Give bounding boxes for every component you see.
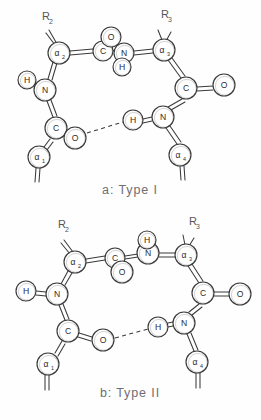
figure-sheet: α2CONHα3CONHCOHNα1α4 R2R3 a: Type I xyxy=(0,0,261,420)
atom-label: O xyxy=(72,133,79,143)
atom-label: α xyxy=(176,150,181,160)
atom-a-n-right: N xyxy=(152,106,174,128)
atom-b-n-right: N xyxy=(173,312,195,334)
hydrogen-bond-dashed-type-i xyxy=(87,122,123,133)
atom-label-subscript: 3 xyxy=(189,256,192,262)
atoms-type-i: α2CONHα3CONHCOHNα1α4 xyxy=(18,27,235,168)
b-bond-nright-h xyxy=(168,322,173,323)
atom-label: C xyxy=(100,46,106,56)
caption-type-i: a: Type I xyxy=(102,183,158,197)
diagram-type-i: α2CONHα3CONHCOHNα1α4 R2R3 a: Type I xyxy=(18,8,235,197)
atom-b-alpha1: α1 xyxy=(37,353,59,375)
atom-b-o-left: O xyxy=(92,329,114,351)
tail-alpha4-b xyxy=(184,166,185,180)
atom-b-o-top: O xyxy=(111,261,133,283)
atom-a-alpha1: α1 xyxy=(28,146,50,168)
side-chain-labels-type-ii: R2R3 xyxy=(58,215,200,233)
bond-cright-nright-b xyxy=(171,102,185,110)
atom-label: α xyxy=(160,45,165,55)
atom-label-subscript: 2 xyxy=(62,54,65,60)
bond-nright-h xyxy=(143,117,152,119)
b-bond-alpha2-c xyxy=(86,256,105,259)
side-chain-a-r2: R2 xyxy=(42,10,53,25)
atom-label: N xyxy=(121,48,127,58)
side-chain-label-subscript: 2 xyxy=(65,226,69,233)
bond-cright-oright-b xyxy=(197,90,213,91)
atom-a-alpha3: α3 xyxy=(153,39,175,61)
atom-label: O xyxy=(237,289,244,299)
bond-nright-alpha4 xyxy=(166,128,177,144)
atom-a-n-left: N xyxy=(34,79,56,101)
side-chain-a-r3: R3 xyxy=(161,8,172,23)
atom-label: C xyxy=(200,288,206,298)
side-chain-label-subscript: 3 xyxy=(196,223,200,230)
atom-label-subscript: 4 xyxy=(183,156,186,162)
side-chain-label-subscript: 2 xyxy=(49,18,53,25)
atom-label: O xyxy=(119,267,126,277)
atom-a-o-top: O xyxy=(101,27,121,47)
tail-alpha4 xyxy=(180,166,181,180)
bond-cright-oright xyxy=(197,86,213,87)
atom-label: N xyxy=(181,318,187,328)
b-bond-nright-h-b xyxy=(168,326,173,327)
atom-a-c-right: C xyxy=(175,77,197,99)
b-bond-cleft-oleft xyxy=(79,333,92,337)
bond-alpha3-cright xyxy=(168,60,181,78)
bond-nright-alpha4-b xyxy=(170,126,181,142)
atom-label: H xyxy=(155,322,161,332)
atom-label: C xyxy=(53,123,59,133)
bond-nright-h-b xyxy=(143,121,152,123)
b-bond-r2-alpha2 xyxy=(64,240,73,252)
atom-label: C xyxy=(65,326,71,336)
atom-label: H xyxy=(144,235,150,245)
bond-alpha2-nleft xyxy=(48,62,53,79)
atom-a-h-top: H xyxy=(113,58,131,76)
atom-label: N xyxy=(42,85,48,95)
b-bond-nleft-hleft-b xyxy=(36,295,46,296)
b-bond-nleft-hleft xyxy=(36,291,46,292)
atom-label: α xyxy=(193,357,198,367)
tail-alpha1 xyxy=(35,168,36,182)
side-chain-b-r3: R3 xyxy=(189,215,200,230)
bond-cleft-alpha1 xyxy=(44,139,50,147)
atom-a-alpha4: α4 xyxy=(169,144,191,166)
atom-label: α xyxy=(55,48,60,58)
atom-a-alpha2: α2 xyxy=(48,42,70,64)
atom-label-subscript: 1 xyxy=(42,158,45,164)
b-bond-alpha3-cright xyxy=(188,266,199,283)
tail-alpha1-b xyxy=(39,168,40,182)
b-bond-alpha2-c-b xyxy=(86,260,105,263)
b-bond-c-n xyxy=(125,254,138,256)
atom-label: α xyxy=(182,250,187,260)
bond-cright-nright xyxy=(168,99,182,107)
atom-label: α xyxy=(44,359,49,369)
atom-a-o-right: O xyxy=(213,74,235,96)
bond-alpha3-cright-b xyxy=(172,58,185,76)
bond-alpha2-c xyxy=(70,49,93,51)
atom-b-o-right: O xyxy=(229,283,251,305)
atom-b-alpha4: α4 xyxy=(186,351,208,373)
atom-a-h-left: H xyxy=(18,71,36,89)
bond-r3-alpha3 xyxy=(158,30,162,40)
atom-b-alpha3: α3 xyxy=(175,244,197,266)
atom-label: O xyxy=(221,80,228,90)
atom-b-c-left: C xyxy=(57,320,79,342)
atom-a-o-left: O xyxy=(64,127,86,149)
b-bond-alpha3-cright-b xyxy=(192,264,203,281)
caption-type-ii: b: Type II xyxy=(100,386,160,400)
atom-label-subscript: 2 xyxy=(78,263,81,269)
atom-b-n-left: N xyxy=(46,283,68,305)
b-bond-cleft-oleft-b xyxy=(78,337,91,341)
atom-label-subscript: 4 xyxy=(200,363,203,369)
bond-n-alpha3 xyxy=(134,49,153,51)
bond-cleft-alpha1-b xyxy=(47,142,53,150)
bond-alpha2-nleft-b xyxy=(52,63,57,80)
atom-label: α xyxy=(35,152,40,162)
beta-turn-figure: α2CONHα3CONHCOHNα1α4 R2R3 a: Type I xyxy=(0,0,261,420)
bond-n-alpha3-b xyxy=(134,53,153,55)
hydrogen-bond-dashed-type-ii xyxy=(115,329,148,338)
atoms-type-ii: α2CONHα3CONHCOHNα1α4 xyxy=(16,231,251,375)
atom-label-subscript: 1 xyxy=(51,365,54,371)
atom-label: O xyxy=(100,335,107,345)
side-chain-b-r2: R2 xyxy=(58,218,69,233)
